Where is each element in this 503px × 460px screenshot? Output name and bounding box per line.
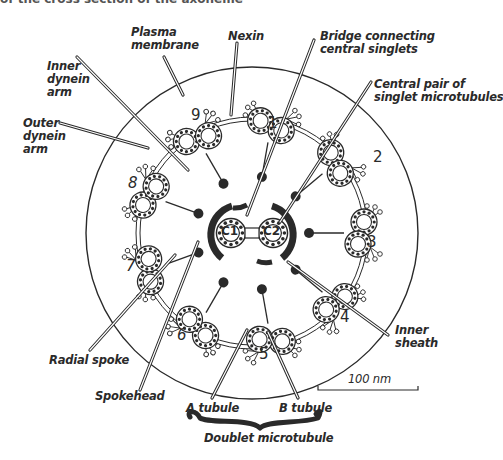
leader-lines [60, 40, 388, 398]
label-bridge-connecting-central-singlets: Bridge connecting central singlets [320, 30, 435, 56]
doublet-number-2: 2 [373, 148, 383, 166]
label-doublet-microtubule: Doublet microtubule [204, 432, 333, 445]
label-central-pair: Central pair of singlet microtubules [374, 78, 503, 104]
doublet-number-1: 1 [268, 114, 278, 132]
label-scale-bar: 100 nm [348, 373, 391, 386]
label-radial-spoke: Radial spoke [49, 354, 129, 367]
doublet-number-4: 4 [340, 308, 350, 326]
central-singlet-c2-label: C2 [263, 224, 280, 238]
doublet-number-8: 8 [128, 174, 138, 192]
label-inner-sheath: Inner sheath [395, 324, 438, 350]
doublet-number-7: 7 [126, 257, 136, 275]
central-singlet-c1-label: C1 [221, 224, 238, 238]
label-a-tubule: A tubule [186, 402, 239, 415]
label-outer-dynein-arm: Outer dynein arm [23, 117, 66, 156]
label-inner-dynein-arm: Inner dynein arm [47, 60, 90, 99]
doublet-number-9: 9 [191, 106, 201, 124]
doublet-number-5: 5 [259, 345, 269, 363]
label-nexin: Nexin [228, 30, 264, 43]
doublet-number-6: 6 [177, 326, 187, 344]
doublet-number-3: 3 [367, 233, 377, 251]
label-plasma-membrane: Plasma membrane [131, 26, 199, 52]
scale-bar [318, 386, 418, 390]
label-spokehead: Spokehead [95, 390, 165, 403]
label-b-tubule: B tubule [279, 402, 332, 415]
